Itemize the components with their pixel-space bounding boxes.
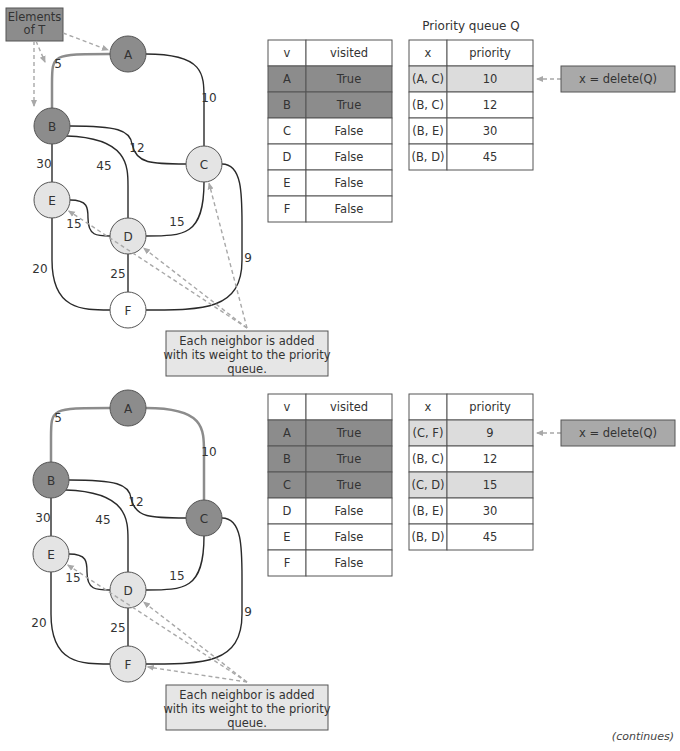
visited-table-row: ATrue [268, 66, 392, 92]
svg-text:9: 9 [486, 426, 493, 440]
svg-text:E: E [47, 548, 55, 562]
visited-table-header: vvisited [268, 40, 392, 66]
svg-text:True: True [336, 426, 361, 440]
edge-weight-E-F: 20 [31, 616, 46, 630]
visited-table-row: CTrue [268, 472, 392, 498]
svg-text:Each neighbor is added: Each neighbor is added [179, 688, 314, 702]
edge-weight-D-F: 25 [110, 621, 125, 635]
svg-text:visited: visited [330, 400, 368, 414]
edge-E-F [51, 572, 110, 664]
visited-table: vvisitedATrueBTrueCTrueDFalseEFalseFFals… [268, 394, 392, 576]
node-E: E [33, 536, 69, 572]
edge-weight-D-F: 25 [110, 267, 125, 281]
svg-text:visited: visited [330, 46, 368, 60]
svg-text:A: A [283, 426, 291, 440]
visited-table-row: BTrue [268, 446, 392, 472]
svg-text:v: v [284, 400, 291, 414]
svg-text:v: v [284, 46, 291, 60]
panel-step1: 510124530151520259ABCDEFElementsof Tvvis… [6, 8, 675, 376]
svg-text:queue.: queue. [227, 716, 267, 730]
svg-text:45: 45 [483, 530, 498, 544]
svg-text:(C, F): (C, F) [413, 426, 444, 440]
edge-weight-B-D: 45 [96, 159, 111, 173]
svg-text:True: True [336, 452, 361, 466]
queue-table-row: (B, E)30 [409, 118, 533, 144]
svg-text:30: 30 [483, 504, 498, 518]
svg-text:B: B [283, 98, 291, 112]
svg-text:x: x [425, 46, 432, 60]
svg-text:False: False [335, 530, 364, 544]
edge-B-D [66, 490, 128, 572]
graph-edges: 510124530151520259 [32, 54, 251, 310]
priority-queue-table: Priority queue Qxpriority(A, C)10(B, C)1… [409, 19, 533, 170]
svg-text:10: 10 [483, 72, 498, 86]
visited-table: vvisitedATrueBTrueCFalseDFalseEFalseFFal… [268, 40, 392, 222]
svg-text:True: True [336, 98, 361, 112]
queue-table-row: (B, E)30 [409, 498, 533, 524]
edge-weight-B-E: 30 [36, 157, 51, 171]
svg-text:12: 12 [483, 452, 498, 466]
visited-table-row: CFalse [268, 118, 392, 144]
node-D: D [110, 572, 146, 608]
queue-table-row: (A, C)10 [409, 66, 533, 92]
svg-text:(B, D): (B, D) [411, 150, 444, 164]
node-C: C [186, 500, 222, 536]
edge-weight-B-C: 12 [128, 495, 143, 509]
delete-q-box: x = delete(Q) [537, 66, 675, 92]
edge-weight-A-C: 10 [201, 91, 216, 105]
svg-text:E: E [48, 194, 56, 208]
svg-text:B: B [283, 452, 291, 466]
svg-text:False: False [335, 150, 364, 164]
svg-text:x = delete(Q): x = delete(Q) [579, 426, 657, 440]
edge-weight-E-D: 15 [66, 217, 81, 231]
node-B: B [34, 108, 70, 144]
svg-text:True: True [336, 72, 361, 86]
edge-weight-B-E: 30 [35, 511, 50, 525]
svg-text:F: F [284, 202, 291, 216]
queue-table-header: xpriority [409, 394, 533, 420]
edge-B-C [70, 126, 186, 164]
graph-edges: 510124530151520259 [31, 408, 251, 664]
continues-label: (continues) [612, 730, 674, 743]
edge-C-F [146, 164, 242, 310]
edge-weight-A-C: 10 [201, 445, 216, 459]
svg-text:C: C [200, 158, 208, 172]
edge-E-F [52, 218, 110, 310]
svg-text:(B, E): (B, E) [412, 504, 443, 518]
svg-text:priority: priority [469, 400, 511, 414]
visited-table-row: EFalse [268, 524, 392, 550]
svg-text:Elements: Elements [8, 10, 62, 24]
edge-weight-E-D: 15 [65, 571, 80, 585]
note-arrow-F [148, 667, 247, 682]
panel-step2: 510124530151520259ABCDEFvvisitedATrueBTr… [31, 390, 675, 730]
svg-text:E: E [283, 176, 290, 190]
node-B: B [33, 462, 69, 498]
queue-table-row: (B, D)45 [409, 144, 533, 170]
svg-text:C: C [283, 124, 291, 138]
svg-text:False: False [335, 124, 364, 138]
node-F: F [110, 646, 146, 682]
svg-text:15: 15 [483, 478, 498, 492]
queue-table-header: xpriority [409, 40, 533, 66]
svg-text:30: 30 [483, 124, 498, 138]
svg-text:priority: priority [469, 46, 511, 60]
queue-table-row: (B, C)12 [409, 446, 533, 472]
priority-queue-title: Priority queue Q [422, 19, 519, 33]
edge-weight-B-C: 12 [129, 141, 144, 155]
elements-arrows [34, 33, 108, 106]
visited-table-row: ATrue [268, 420, 392, 446]
svg-text:(C, D): (C, D) [411, 478, 444, 492]
edge-B-D [67, 136, 128, 218]
visited-table-row: EFalse [268, 170, 392, 196]
edge-weight-C-F: 9 [244, 251, 252, 265]
priority-queue-table: xpriority(C, F)9(B, C)12(C, D)15(B, E)30… [409, 394, 533, 550]
svg-text:F: F [125, 304, 132, 318]
node-A: A [110, 390, 146, 426]
svg-text:x: x [425, 400, 432, 414]
svg-text:(B, C): (B, C) [412, 452, 444, 466]
node-F: F [110, 292, 146, 328]
svg-text:A: A [124, 48, 133, 62]
svg-text:F: F [284, 556, 291, 570]
edge-A-C [146, 54, 204, 146]
svg-text:(B, C): (B, C) [412, 98, 444, 112]
